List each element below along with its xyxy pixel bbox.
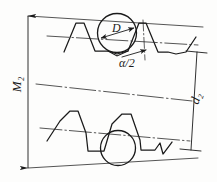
thread-measurement-diagram bbox=[0, 0, 217, 182]
lower-wire-circle bbox=[101, 131, 136, 166]
lower-pitch-dashdot bbox=[40, 128, 190, 141]
central-axis bbox=[36, 84, 192, 101]
label-half-thread-angle: α/2 bbox=[119, 57, 135, 69]
tooth-axis-dashdot bbox=[143, 20, 145, 60]
label-measurement-over-wires: M₂ bbox=[10, 77, 23, 92]
label-wire-diameter: D bbox=[112, 22, 121, 34]
d2-top-tick bbox=[186, 51, 207, 53]
lower-pitch-line bbox=[40, 128, 190, 141]
frame-boundary bbox=[28, 16, 203, 168]
lower-measuring-wire bbox=[101, 131, 136, 166]
central-axis-line bbox=[36, 84, 192, 101]
d2-bottom-tick bbox=[180, 149, 201, 151]
technical-drawing-screenshot: M₂ d₂ D α/2 bbox=[0, 0, 217, 182]
bottom-boundary-line bbox=[28, 158, 198, 168]
